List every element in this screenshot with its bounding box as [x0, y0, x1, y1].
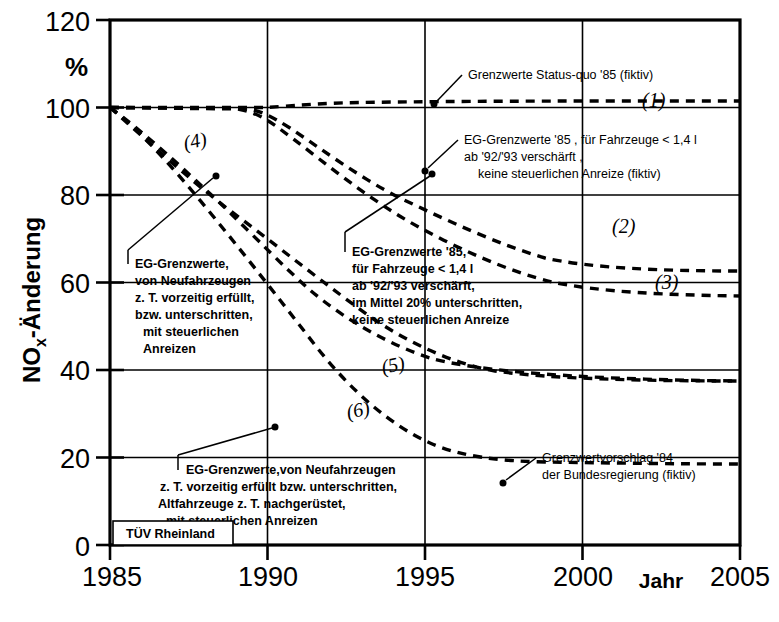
annotation-eg85-no-incentive-leader	[428, 140, 458, 168]
ytick-label-60: 60	[60, 269, 90, 299]
annotation-eg85-20percent-leader-d	[345, 176, 430, 232]
curve-id-4: (4)	[181, 127, 209, 154]
annotation-eg-new-vehicles: EG-Grenzwerte, von Neufahrzeugen z. T. v…	[128, 173, 254, 357]
annotation-retrofit-line-2: Altfahrzeuge z. T. nachgerüstet,	[158, 497, 346, 511]
xtick-label-2000: 2000	[553, 562, 613, 592]
annotation-eg-new-vehicles-line-3: bzw. unterschritten,	[135, 308, 253, 322]
annotation-grenzwertvorschlag-84-anchor	[500, 480, 507, 487]
ytick-label-0: 0	[75, 532, 90, 562]
annotation-eg-new-vehicles-line-5: Anreizen	[143, 342, 196, 356]
annotation-eg-new-vehicles-leader-d	[128, 178, 213, 250]
annotation-eg-new-vehicles-anchor	[213, 173, 220, 180]
ytick-label-100: 100	[45, 94, 90, 124]
xtick-label-2005: 2005	[710, 562, 770, 592]
annotation-eg85-20percent: EG-Grenzwerte '85, für Fahrzeuge < 1,4 l…	[345, 171, 522, 328]
annotation-eg85-20percent-line-3: im Mittel 20% unterschritten,	[352, 296, 522, 310]
annotation-status-quo-anchor	[431, 101, 438, 108]
annotation-eg-new-vehicles-line-2: z. T. vorzeitig erfüllt,	[135, 291, 254, 305]
annotation-eg85-20percent-line-4: keine steuerlichen Anreize	[352, 313, 509, 327]
curve-id-5: (5)	[379, 351, 407, 378]
annotation-eg85-no-incentive-line-2: keine steuerlichen Anreize (fiktiv)	[478, 167, 661, 181]
nox-change-chart: 120 100 80 60 40 20 0 % 1985 1990 1995 2…	[0, 0, 779, 622]
curve-id-1: (1)	[642, 89, 666, 112]
tuv-rheinland-logo-label: TÜV Rheinland	[126, 526, 215, 541]
ytick-label-20: 20	[60, 444, 90, 474]
xtick-label-1985: 1985	[82, 562, 142, 592]
xtick-label-1990: 1990	[238, 562, 298, 592]
annotation-eg-new-vehicles-line-4: mit steuerlichen	[143, 325, 239, 339]
annotation-eg85-no-incentive: EG-Grenzwerte '85 , für Fahrzeuge < 1,4 …	[422, 133, 697, 181]
annotation-eg85-20percent-line-1: für Fahrzeuge < 1,4 l	[352, 262, 473, 276]
xtick-label-1995: 1995	[395, 562, 455, 592]
annotation-eg85-20percent-line-0: EG-Grenzwerte '85,	[352, 245, 466, 259]
tuv-rheinland-logo: TÜV Rheinland	[113, 521, 233, 545]
annotation-grenzwertvorschlag-84: Grenzwertvorschlag '84 der Bundesregieru…	[500, 451, 696, 487]
annotation-eg-new-vehicles-line-1: von Neufahrzeugen	[135, 274, 251, 288]
y-axis-title: NOx-Änderung	[18, 217, 49, 383]
y-axis-title-group: NOx-Änderung	[18, 217, 49, 383]
annotation-eg85-20percent-line-2: ab '92/'93 verschärft,	[352, 279, 475, 293]
y-axis-unit-label: %	[65, 52, 88, 82]
annotation-retrofit-line-1: z. T. vorzeitig erfüllt bzw. unterschrit…	[160, 480, 397, 494]
annotation-retrofit-line-0: EG-Grenzwerte,von Neufahrzeugen	[186, 463, 396, 477]
annotation-eg85-no-incentive-line-0: EG-Grenzwerte '85 , für Fahrzeuge < 1,4 …	[464, 133, 697, 147]
x-axis-title: Jahr	[639, 569, 683, 592]
ytick-label-80: 80	[60, 181, 90, 211]
annotation-grenzwertvorschlag-84-line-0: Grenzwertvorschlag '84	[542, 451, 673, 465]
annotation-eg85-no-incentive-anchor	[422, 168, 429, 175]
chart-svg: 120 100 80 60 40 20 0 % 1985 1990 1995 2…	[0, 0, 779, 622]
curve-id-2: (2)	[612, 215, 636, 238]
annotation-eg-new-vehicles-line-0: EG-Grenzwerte,	[135, 257, 229, 271]
annotation-eg85-no-incentive-line-1: ab '92/'93 verschärft ,	[464, 150, 583, 164]
y-axis-labels: 120 100 80 60 40 20 0	[45, 7, 90, 562]
annotation-retrofit: EG-Grenzwerte,von Neufahrzeugen z. T. vo…	[158, 424, 397, 529]
annotation-status-quo-line-0: Grenzwerte Status-quo '85 (fiktiv)	[468, 68, 653, 82]
x-tickmarks	[110, 545, 740, 560]
annotation-retrofit-anchor	[272, 424, 279, 431]
annotation-status-quo-leader	[437, 75, 462, 101]
curve-id-3: (3)	[655, 271, 679, 294]
annotation-grenzwertvorschlag-84-line-1: der Bundesregierung (fiktiv)	[542, 468, 696, 482]
ytick-label-120: 120	[45, 7, 90, 37]
ytick-label-40: 40	[60, 356, 90, 386]
annotation-eg85-20percent-anchor	[429, 171, 436, 178]
annotation-retrofit-leader-d	[178, 428, 272, 455]
